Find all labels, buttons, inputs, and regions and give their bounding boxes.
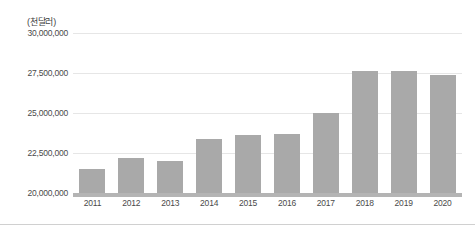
x-tick-label: 2019	[395, 198, 413, 208]
bar	[391, 71, 417, 193]
y-tick-label: 27,500,000	[27, 68, 68, 78]
y-tick-label: 25,000,000	[27, 108, 68, 118]
y-tick-label: 20,000,000	[27, 188, 68, 198]
bar	[430, 75, 456, 193]
bar	[157, 161, 183, 193]
bar	[235, 135, 261, 193]
x-tick-label: 2015	[239, 198, 257, 208]
bottom-divider	[0, 224, 475, 225]
bar	[79, 169, 105, 193]
x-tick-label: 2020	[433, 198, 451, 208]
bar-chart: (천달러) 20,000,00022,500,00025,000,00027,5…	[0, 0, 475, 234]
y-tick-label: 22,500,000	[27, 148, 68, 158]
axis-baseline	[73, 193, 462, 197]
bar	[352, 71, 378, 193]
x-tick-label: 2014	[200, 198, 218, 208]
x-tick-label: 2012	[122, 198, 140, 208]
bars	[73, 33, 462, 193]
x-axis-labels: 2011201220132014201520162017201820192020	[73, 198, 462, 214]
x-tick-label: 2017	[317, 198, 335, 208]
bar	[313, 113, 339, 193]
x-tick-label: 2013	[161, 198, 179, 208]
bar	[274, 134, 300, 193]
y-tick-label: 30,000,000	[27, 28, 68, 38]
bar	[196, 139, 222, 193]
x-tick-label: 2011	[84, 198, 101, 208]
x-tick-label: 2018	[356, 198, 374, 208]
plot-area	[73, 33, 462, 193]
y-axis-labels: 20,000,00022,500,00025,000,00027,500,000…	[0, 0, 68, 234]
bar	[118, 158, 144, 193]
x-tick-label: 2016	[278, 198, 296, 208]
